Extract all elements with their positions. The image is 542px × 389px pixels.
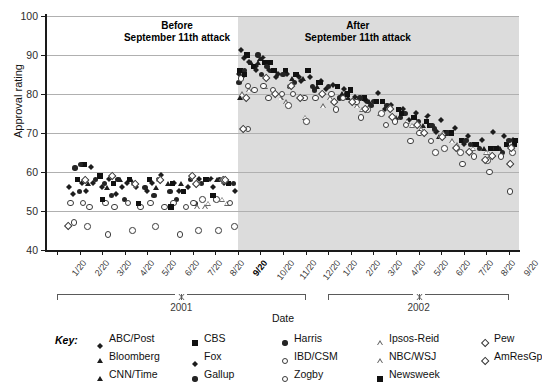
y-tick-mark-40 <box>41 250 45 251</box>
data-point <box>465 130 471 136</box>
data-point <box>501 130 507 136</box>
x-tick-mark-4 <box>147 250 148 255</box>
data-point <box>161 204 168 211</box>
data-point <box>432 149 439 156</box>
filled-triangle-icon <box>95 374 105 384</box>
y-axis-label: Approval rating <box>12 41 24 161</box>
y-tick-mark-60 <box>41 172 45 173</box>
y-tick-label-40: 40 <box>12 245 38 255</box>
data-point <box>293 72 298 77</box>
x-tick-label-19: 8/20 <box>499 258 518 278</box>
x-tick-mark-20 <box>509 250 510 255</box>
data-point <box>105 231 112 238</box>
x-tick-mark-3 <box>125 250 126 255</box>
data-point <box>231 223 238 230</box>
y-tick-label-50: 50 <box>12 206 38 216</box>
gridline-60 <box>47 172 519 173</box>
data-point <box>111 181 116 186</box>
data-point <box>196 173 202 179</box>
data-point <box>413 107 419 113</box>
year-bracket-2002 <box>328 288 509 300</box>
plot-area: Before September 11th attack After Septe… <box>47 16 519 250</box>
x-tick-label-10: 11/20 <box>297 258 318 281</box>
x-tick-mark-9 <box>260 250 261 255</box>
data-point <box>285 102 292 109</box>
x-tick-label-14: 3/20 <box>386 258 405 278</box>
open-triangle-icon <box>375 338 385 348</box>
data-point <box>100 197 105 202</box>
data-point <box>335 84 340 89</box>
data-point <box>318 80 323 85</box>
data-point <box>77 189 82 194</box>
legend-label: Harris <box>294 332 322 344</box>
legend-label: Ipsos-Reid <box>389 332 439 344</box>
x-tick-label-7: 8/20 <box>228 258 247 278</box>
data-point <box>407 138 414 145</box>
data-point <box>202 204 208 209</box>
open-circle-icon <box>280 356 290 366</box>
x-tick-mark-13 <box>351 250 352 255</box>
x-tick-label-20: 9/20 <box>522 258 541 278</box>
data-point <box>312 87 317 92</box>
x-tick-mark-14 <box>373 250 374 255</box>
data-point <box>86 204 93 211</box>
data-point <box>97 173 102 178</box>
data-point <box>119 181 125 187</box>
data-point <box>474 142 479 147</box>
data-point <box>265 95 272 102</box>
data-point <box>432 126 437 131</box>
data-point <box>66 181 72 187</box>
x-tick-label-3: 4/20 <box>138 258 157 278</box>
legend-label: NBC/WSJ <box>389 350 436 362</box>
open-diamond-icon <box>480 338 490 348</box>
x-tick-mark-5 <box>170 250 171 255</box>
data-point <box>424 119 429 124</box>
gridline-100 <box>47 16 519 17</box>
data-point <box>242 72 247 77</box>
filled-square-icon <box>375 374 385 384</box>
x-tick-label-4: 5/20 <box>160 258 179 278</box>
x-tick-label-0: 1/20 <box>70 258 89 278</box>
data-point <box>298 75 304 81</box>
gridline-50 <box>47 211 519 212</box>
x-tick-label-11: 12/20 <box>320 258 342 282</box>
data-point <box>129 227 136 234</box>
data-point <box>151 193 156 198</box>
data-point <box>438 114 444 120</box>
annotation-before: Before September 11th attack <box>87 20 267 44</box>
data-point <box>303 118 310 125</box>
x-tick-label-2: 3/20 <box>115 258 134 278</box>
data-point <box>479 134 485 140</box>
data-point <box>425 110 431 116</box>
data-point <box>75 177 80 182</box>
annotation-before-line1: Before <box>87 20 267 32</box>
data-point <box>490 126 496 132</box>
data-point <box>72 165 77 170</box>
data-point <box>441 145 448 152</box>
x-tick-label-12: 1/20 <box>341 258 360 278</box>
x-tick-mark-19 <box>486 250 487 255</box>
data-point <box>378 110 385 117</box>
x-tick-label-9: 10/20 <box>275 258 297 282</box>
x-tick-label-18: 7/20 <box>477 258 496 278</box>
year-label-2001: 2001 <box>161 302 201 313</box>
annotation-after: After September 11th attack <box>258 20 458 44</box>
filled-triangle-icon <box>95 356 105 366</box>
data-point <box>452 122 458 128</box>
data-point <box>215 227 222 234</box>
data-point <box>111 204 118 211</box>
y-tick-mark-90 <box>41 55 45 56</box>
data-point <box>326 84 331 89</box>
y-tick-label-100: 100 <box>12 11 38 21</box>
filled-diamond-icon <box>190 356 200 366</box>
x-tick-mark-17 <box>441 250 442 255</box>
y-tick-mark-70 <box>41 133 45 134</box>
y-tick-mark-80 <box>41 94 45 95</box>
x-tick-label-5: 6/20 <box>183 258 202 278</box>
data-point <box>176 185 182 191</box>
data-point <box>449 130 454 135</box>
data-point <box>170 181 175 186</box>
data-point <box>494 146 499 151</box>
data-point <box>358 114 365 121</box>
x-tick-label-13: 2/20 <box>364 258 383 278</box>
